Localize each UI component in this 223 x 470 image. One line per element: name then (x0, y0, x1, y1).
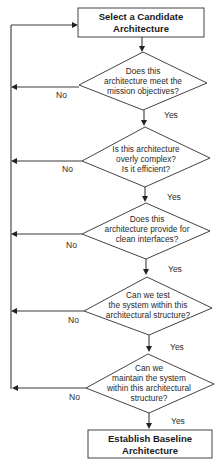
decision-1-line-3: mission objectives? (107, 86, 179, 96)
decision-3-no-label: No (66, 240, 77, 250)
end-box: Establish Baseline Architecture (88, 430, 212, 458)
arrow-down-icon (141, 120, 147, 126)
arrow-left-icon (11, 231, 17, 237)
start-box-line-2: Architecture (113, 23, 169, 34)
decision-5-yes-label: Yes (171, 416, 185, 426)
decision-3: Does this architecture provide for clean… (82, 203, 210, 259)
arrow-down-icon (142, 196, 148, 202)
decision-3-line-2: architecture provide for (105, 224, 190, 234)
decision-4: Can we test the system within this archi… (84, 277, 212, 335)
decision-3-yes-label: Yes (168, 264, 182, 274)
decision-5: Can we maintain the system within this a… (86, 354, 214, 413)
decision-2: Is this architecture overly complex? Is … (82, 127, 210, 187)
decision-4-line-2: the system within this (109, 300, 188, 310)
arrow-left-icon (11, 84, 17, 90)
decision-2-yes-label: Yes (167, 192, 181, 202)
decision-5-line-3: within this architectural (106, 383, 191, 393)
decision-1-yes-label: Yes (164, 110, 178, 120)
decision-1-line-2: architecture meet the (104, 76, 182, 86)
decision-4-no-label: No (68, 315, 79, 325)
end-box-line-2: Architecture (122, 445, 178, 456)
decision-2-line-1: Is this architecture (112, 144, 180, 154)
decision-1: Does this architecture meet the mission … (79, 52, 207, 110)
arrow-down-icon (146, 423, 152, 429)
decision-5-no-label: No (69, 392, 80, 402)
decision-5-line-2: maintain the system (112, 373, 186, 383)
end-box-line-1: Establish Baseline (108, 433, 192, 444)
arrow-right-icon (72, 22, 78, 28)
arrow-left-icon (12, 385, 18, 391)
decision-2-line-3: Is it efficient? (122, 164, 171, 174)
decision-5-line-4: structure? (131, 393, 168, 403)
start-box-line-1: Select a Candidate (99, 11, 183, 22)
flowchart: Select a Candidate Architecture Does thi… (0, 0, 223, 470)
decision-2-no-label: No (62, 164, 73, 174)
decision-4-line-3: architectural structure? (106, 310, 191, 320)
decision-2-line-2: overly complex? (116, 154, 176, 164)
decision-5-line-1: Can we (135, 363, 164, 373)
decision-1-no-label: No (56, 90, 67, 100)
decision-3-line-3: clean interfaces? (116, 234, 179, 244)
decision-4-yes-label: Yes (170, 342, 184, 352)
arrow-left-icon (11, 158, 17, 164)
decision-4-line-1: Can we test (126, 290, 171, 300)
arrow-left-icon (11, 308, 17, 314)
decision-3-line-1: Does this (130, 214, 165, 224)
decision-1-line-1: Does this (126, 66, 161, 76)
arrow-down-icon (146, 346, 152, 352)
start-box: Select a Candidate Architecture (78, 8, 204, 37)
arrow-down-icon (139, 46, 145, 52)
arrow-down-icon (143, 269, 149, 275)
